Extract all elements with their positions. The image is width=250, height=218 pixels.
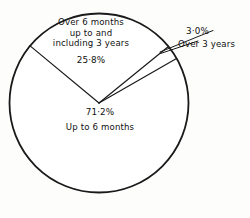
pie-chart-figure: Over 6 months up to and including 3 year… (0, 0, 250, 218)
slice-label-line-2: up to and (34, 28, 148, 39)
slice-label-line-3: including 3 years (34, 38, 148, 49)
slice-percent-over-6-months-to-3-years: 25·8% (34, 55, 148, 66)
slice-label-up-to-6-months: Up to 6 months (40, 122, 160, 133)
slice-label-over-3-years: Over 3 years (178, 39, 250, 50)
slice-percent-up-to-6-months: 71·2% (40, 107, 160, 118)
slice-label-over-6-months-to-3-years: Over 6 months up to and including 3 year… (34, 17, 148, 49)
slice-percent-over-3-years: 3·0% (186, 26, 248, 37)
slice-label-line-1: Over 6 months (34, 17, 148, 28)
